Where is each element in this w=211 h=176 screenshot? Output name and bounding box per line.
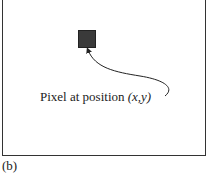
figure-caption: (b) [2, 158, 17, 174]
label-text: Pixel at position [40, 89, 128, 104]
label-math: (x,y) [128, 89, 151, 104]
pixel-label: Pixel at position (x,y) [40, 89, 151, 105]
arrow-curve-icon [0, 0, 211, 176]
